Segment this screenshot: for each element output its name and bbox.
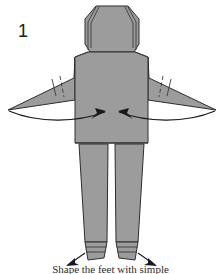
origami-figure — [0, 0, 221, 274]
step-number: 1 — [18, 22, 28, 40]
left-arm — [8, 57, 75, 110]
origami-diagram-page: 1 Shape the feet with simple — [0, 0, 221, 274]
left-foot — [85, 242, 107, 260]
right-leg — [115, 144, 144, 242]
right-arm — [148, 57, 216, 110]
left-leg — [79, 144, 108, 242]
torso — [75, 52, 148, 143]
right-foot — [116, 242, 138, 260]
figure-caption: Shape the feet with simple — [0, 263, 221, 274]
